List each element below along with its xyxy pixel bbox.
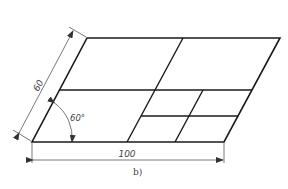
slant-dimension-label: 60 [31, 78, 45, 93]
angle-label: 60° [70, 113, 85, 123]
slant-dimension-line [19, 31, 73, 133]
slant-extension-top [69, 27, 86, 37]
base-dimension-label: 100 [118, 149, 135, 159]
figure-caption: b) [133, 167, 142, 177]
parallelogram-diagram: 60 100 60° b) [0, 0, 288, 189]
slant-extension-bottom [13, 130, 31, 141]
